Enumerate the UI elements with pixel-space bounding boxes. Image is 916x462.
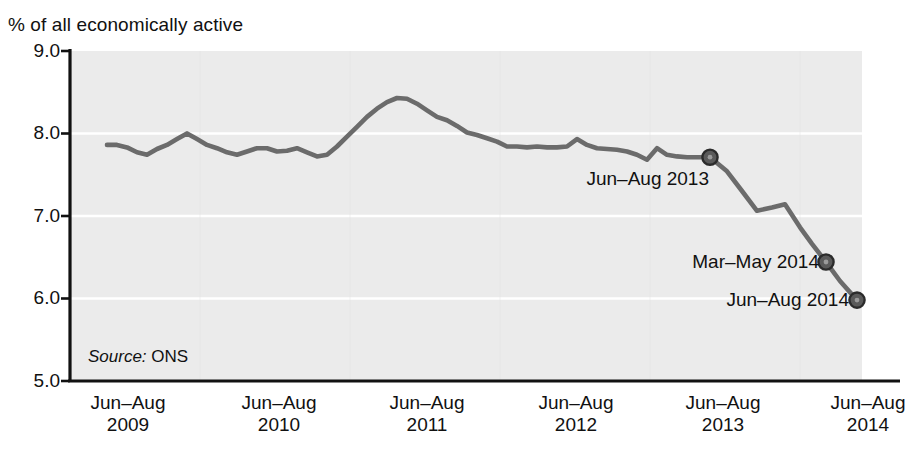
annotation-mar-may-2014: Mar–May 2014 [692, 251, 819, 273]
ytick-label-7: 7.0 [4, 205, 60, 227]
xtick-year-2013: 2013 [685, 414, 760, 436]
xtick-year-2010: 2010 [241, 414, 316, 436]
xtick-period-2014: Jun–Aug [830, 392, 905, 414]
ytick-label-6: 6.0 [4, 287, 60, 309]
annotation-jun-aug-2013: Jun–Aug 2013 [586, 168, 709, 190]
xtick-period-2010: Jun–Aug [241, 392, 316, 414]
source-value: ONS [151, 347, 188, 366]
source-label: Source: [88, 347, 147, 366]
annotation-jun-aug-2014: Jun–Aug 2014 [726, 289, 849, 311]
xtick-label-2011: Jun–Aug 2011 [389, 392, 464, 436]
xtick-label-2012: Jun–Aug 2012 [538, 392, 613, 436]
ytick-label-5: 5.0 [4, 370, 60, 392]
ytick-label-8: 8.0 [4, 122, 60, 144]
source-note: Source: ONS [88, 347, 188, 367]
xtick-year-2009: 2009 [90, 414, 165, 436]
chart-container: % of all economically active [0, 0, 916, 462]
xtick-label-2009: Jun–Aug 2009 [90, 392, 165, 436]
ytick-label-9: 9.0 [4, 40, 60, 62]
xtick-period-2013: Jun–Aug [685, 392, 760, 414]
xtick-label-2010: Jun–Aug 2010 [241, 392, 316, 436]
xtick-year-2012: 2012 [538, 414, 613, 436]
xtick-period-2009: Jun–Aug [90, 392, 165, 414]
xtick-year-2014: 2014 [830, 414, 905, 436]
xtick-label-2014: Jun–Aug 2014 [830, 392, 905, 436]
xtick-label-2013: Jun–Aug 2013 [685, 392, 760, 436]
xtick-period-2012: Jun–Aug [538, 392, 613, 414]
xtick-year-2011: 2011 [389, 414, 464, 436]
xtick-period-2011: Jun–Aug [389, 392, 464, 414]
chart-axis-title: % of all economically active [8, 14, 243, 36]
